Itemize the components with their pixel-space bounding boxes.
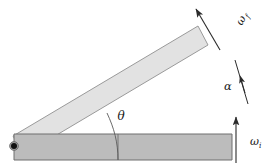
alpha-arrow xyxy=(241,79,245,93)
omega-final-label: ω f xyxy=(233,9,253,29)
pivot-point xyxy=(10,142,19,151)
angular-kinematics-diagram: ω f ω i α θ xyxy=(0,0,272,167)
horizontal-bar-initial-position xyxy=(14,134,232,160)
omega-initial-symbol: ω xyxy=(250,135,259,148)
alpha-label: α xyxy=(224,79,232,93)
omega-initial-label: ω i xyxy=(250,135,262,150)
omega-initial-subscript: i xyxy=(259,141,262,150)
theta-label: θ xyxy=(117,109,125,123)
figure-container: ω f ω i α θ xyxy=(0,0,272,167)
